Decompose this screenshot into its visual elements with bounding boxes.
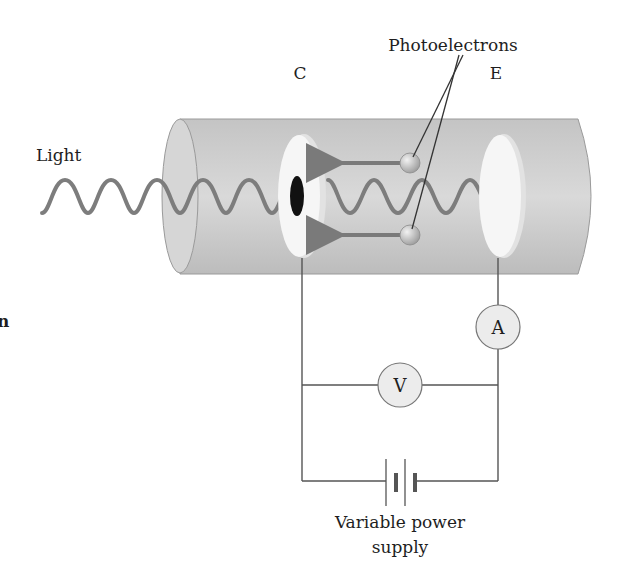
tube-left-opening — [162, 119, 198, 273]
vacuum-tube — [162, 119, 591, 274]
photoelectric-apparatus-diagram: A V Light C E Photoelectrons Variable po… — [0, 0, 632, 575]
electron-upper — [400, 153, 420, 173]
edge-text-fragment: n — [0, 311, 9, 331]
emitter-plate-e — [479, 134, 526, 258]
battery-icon — [386, 459, 417, 506]
cathode-label: C — [293, 63, 306, 83]
power-supply-label-line2: supply — [372, 537, 429, 557]
light-label: Light — [36, 145, 82, 165]
photoelectrons-label: Photoelectrons — [388, 35, 518, 55]
ammeter: A — [476, 305, 520, 349]
emitter-label: E — [490, 63, 502, 83]
voltmeter-label: V — [393, 375, 408, 396]
ammeter-label: A — [491, 317, 506, 338]
electron-lower — [400, 225, 420, 245]
cathode-hole — [290, 176, 304, 216]
voltmeter: V — [378, 363, 422, 407]
cathode-plate-c — [278, 134, 326, 258]
power-supply-label-line1: Variable power — [334, 512, 466, 532]
